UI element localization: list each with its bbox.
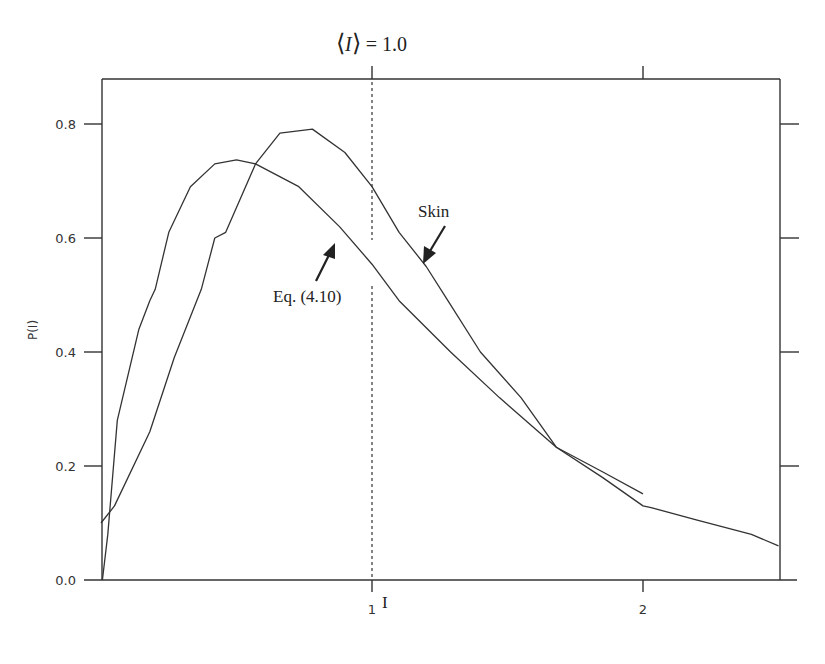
x-tick-label: 1 (368, 602, 376, 617)
y-tick-label: 0.6 (55, 231, 76, 246)
eq-label: Eq. (4.10) (273, 287, 341, 306)
y-tick-label: 0.4 (55, 345, 76, 360)
chart-canvas: 0.00.20.40.60.812 ⟨I⟩ = 1.0 Skin Eq. (4.… (0, 0, 825, 664)
eq-arrowhead-icon (323, 243, 335, 259)
skin-arrowhead-icon (423, 246, 436, 264)
plot-frame (84, 79, 797, 580)
y-tick-label: 0.2 (55, 459, 76, 474)
y-tick-label: 0.8 (55, 117, 76, 132)
skin-arrow-shaft (430, 226, 445, 251)
skin-annotation: Skin (418, 202, 450, 264)
axis-ticks (84, 66, 799, 592)
y-axis-label: P(I) (26, 320, 40, 340)
x-axis-label: I (382, 593, 388, 612)
tick-labels: 0.00.20.40.60.812 (55, 117, 647, 617)
x-tick-label: 2 (639, 602, 647, 617)
eq-arrow-shaft (316, 255, 329, 281)
skin-label: Skin (418, 202, 450, 221)
mean-label: ⟨I⟩ = 1.0 (336, 30, 407, 56)
skin-curve (101, 129, 779, 546)
y-tick-label: 0.0 (55, 573, 76, 588)
eq-annotation: Eq. (4.10) (273, 243, 341, 306)
mean-marker: ⟨I⟩ = 1.0 (336, 30, 407, 578)
eq-4-10-curve (102, 160, 643, 580)
